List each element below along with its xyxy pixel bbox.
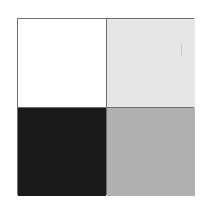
cell-top-left-white: [18, 19, 106, 107]
cell-bottom-left-black: [18, 108, 106, 196]
scan-artifact-mark: [179, 43, 182, 57]
cell-top-right-light-gray: [107, 19, 195, 107]
cell-bottom-right-medium-gray: [107, 108, 195, 196]
four-square-grid: [17, 18, 194, 195]
